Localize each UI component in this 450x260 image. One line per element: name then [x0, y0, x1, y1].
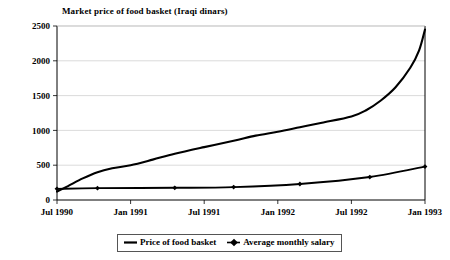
svg-text:1000: 1000 — [32, 126, 51, 136]
x-axis-ticks — [57, 200, 425, 204]
chart-plot-area: 05001000150020002500 Jul 1990Jan 1991Jul… — [0, 0, 450, 260]
x-axis-tick-labels: Jul 1990Jan 1991Jul 1991Jan 1992Jul 1992… — [41, 207, 443, 217]
legend-line-diamond-icon — [227, 238, 240, 247]
svg-text:1500: 1500 — [32, 91, 51, 101]
svg-text:Jan 1993: Jan 1993 — [408, 207, 443, 217]
plot-frame — [57, 26, 425, 200]
svg-text:2000: 2000 — [32, 56, 51, 66]
svg-text:Jan 1991: Jan 1991 — [113, 207, 148, 217]
svg-text:Jul 1992: Jul 1992 — [335, 207, 368, 217]
series-marker — [95, 186, 100, 191]
series-line-0 — [57, 29, 425, 191]
chart-container: Market price of food basket (Iraqi dinar… — [0, 0, 450, 260]
legend-label-price: Price of food basket — [140, 237, 216, 248]
y-axis-tick-labels: 05001000150020002500 — [32, 21, 51, 205]
series-marker — [367, 175, 372, 180]
y-axis-ticks — [53, 26, 57, 200]
svg-text:2500: 2500 — [32, 21, 51, 31]
series-marker — [172, 185, 177, 190]
svg-text:Jan 1992: Jan 1992 — [261, 207, 296, 217]
legend-line-icon — [124, 238, 137, 247]
legend-label-salary: Average monthly salary — [243, 237, 334, 248]
series-lines — [57, 29, 425, 191]
svg-text:Jul 1991: Jul 1991 — [188, 207, 221, 217]
chart-legend: Price of food basket Average monthly sal… — [117, 234, 342, 252]
legend-item-average-monthly-salary: Average monthly salary — [227, 237, 334, 248]
series-marker — [297, 182, 302, 187]
svg-text:500: 500 — [37, 160, 51, 170]
svg-text:Jul 1990: Jul 1990 — [41, 207, 74, 217]
gridlines — [57, 26, 425, 165]
series-marker — [231, 185, 236, 190]
legend-item-price-of-food-basket: Price of food basket — [124, 237, 216, 248]
svg-text:0: 0 — [46, 195, 51, 205]
